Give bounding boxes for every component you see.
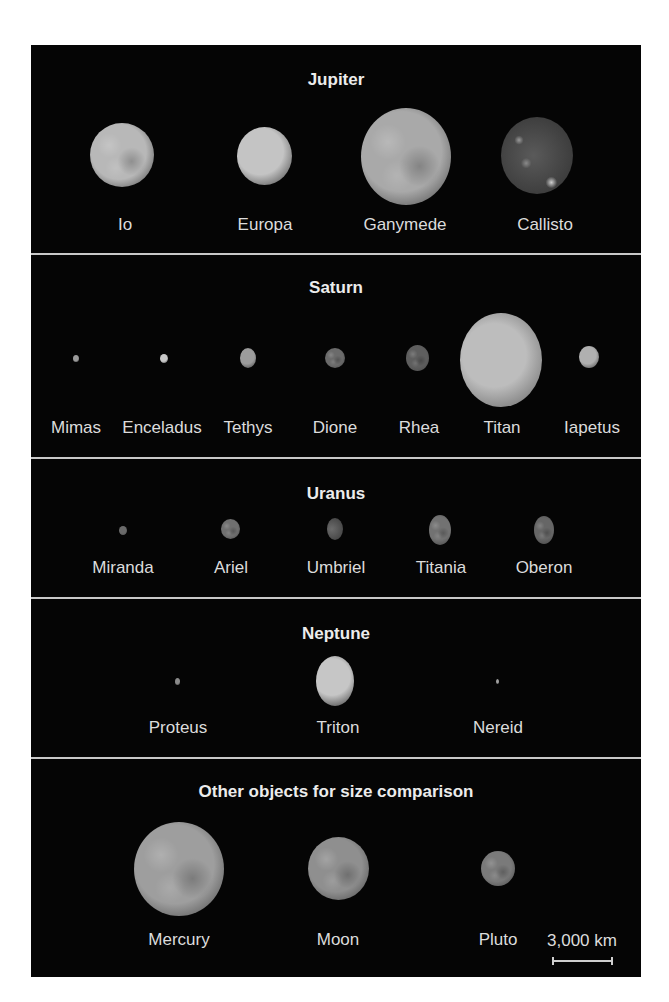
body-proteus <box>175 678 180 685</box>
body-mercury <box>134 822 224 916</box>
label-oberon: Oberon <box>516 558 573 578</box>
scale-bar-label: 3,000 km <box>547 931 617 951</box>
label-europa: Europa <box>238 215 293 235</box>
label-moon: Moon <box>317 930 360 950</box>
label-nereid: Nereid <box>473 718 523 738</box>
group-title-jupiter: Jupiter <box>31 70 641 90</box>
label-callisto: Callisto <box>517 215 573 235</box>
label-tethys: Tethys <box>223 418 272 438</box>
label-enceladus: Enceladus <box>122 418 201 438</box>
scale-bar <box>552 960 613 962</box>
group-title-neptune: Neptune <box>31 624 641 644</box>
body-rhea <box>406 345 429 371</box>
label-rhea: Rhea <box>399 418 440 438</box>
body-mimas <box>73 355 79 362</box>
label-titania: Titania <box>416 558 466 578</box>
body-europa <box>237 127 292 185</box>
body-enceladus <box>160 354 168 363</box>
label-pluto: Pluto <box>479 930 518 950</box>
divider-neptune-other <box>31 757 641 759</box>
label-triton: Triton <box>317 718 360 738</box>
body-callisto <box>501 117 573 194</box>
label-mimas: Mimas <box>51 418 101 438</box>
body-iapetus <box>579 346 599 368</box>
label-titan: Titan <box>483 418 520 438</box>
body-moon <box>308 837 369 900</box>
label-ariel: Ariel <box>214 558 248 578</box>
group-title-other: Other objects for size comparison <box>31 782 641 802</box>
label-ganymede: Ganymede <box>363 215 446 235</box>
body-umbriel <box>327 518 343 540</box>
body-pluto <box>481 851 515 886</box>
label-proteus: Proteus <box>149 718 208 738</box>
body-titania <box>429 515 451 545</box>
body-nereid <box>496 679 499 684</box>
body-io <box>90 123 154 187</box>
label-iapetus: Iapetus <box>564 418 620 438</box>
label-dione: Dione <box>313 418 357 438</box>
label-io: Io <box>118 215 132 235</box>
label-miranda: Miranda <box>92 558 153 578</box>
body-ariel <box>221 519 240 539</box>
body-miranda <box>119 526 127 535</box>
label-mercury: Mercury <box>148 930 209 950</box>
body-tethys <box>240 348 256 368</box>
body-titan <box>460 313 542 407</box>
body-oberon <box>534 516 554 544</box>
body-triton <box>316 656 354 706</box>
divider-uranus-neptune <box>31 597 641 599</box>
group-title-saturn: Saturn <box>31 278 641 298</box>
divider-saturn-uranus <box>31 457 641 459</box>
body-ganymede <box>361 108 451 205</box>
group-title-uranus: Uranus <box>31 484 641 504</box>
label-umbriel: Umbriel <box>307 558 366 578</box>
body-dione <box>325 348 345 368</box>
divider-jupiter-saturn <box>31 253 641 255</box>
